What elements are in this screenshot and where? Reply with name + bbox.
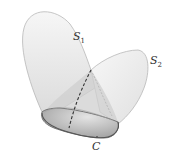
label-s1: S1 [73, 31, 85, 45]
label-s2: S2 [150, 55, 162, 69]
label-c: C [92, 141, 100, 152]
surfaces-diagram [0, 0, 172, 161]
curve-c-marker [96, 136, 98, 138]
